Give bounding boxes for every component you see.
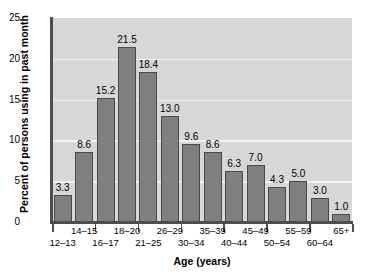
y-axis-tick-label: 15	[0, 95, 20, 105]
bar-value-label: 3.0	[304, 186, 336, 196]
bar	[139, 72, 157, 222]
y-axis-tick-label: 0	[0, 217, 20, 227]
bar-value-label: 8.6	[197, 140, 229, 150]
bar	[97, 98, 115, 222]
bar-value-label: 3.3	[47, 183, 79, 193]
bar-value-label: 21.5	[111, 35, 143, 45]
x-axis-tick-label: 65+	[321, 226, 361, 236]
gridline	[52, 59, 352, 61]
x-axis-tick-label: 12–13	[43, 238, 83, 248]
bar	[182, 144, 200, 222]
x-axis-tick-label: 55–59	[278, 226, 318, 236]
bar-value-label: 13.0	[154, 104, 186, 114]
x-axis-tick-label: 30–34	[171, 238, 211, 248]
bar-value-label: 1.0	[325, 202, 357, 212]
x-axis-tick-label: 40–44	[214, 238, 254, 248]
bar-value-label: 7.0	[240, 153, 272, 163]
bar-value-label: 8.6	[68, 140, 100, 150]
bar	[225, 171, 243, 222]
bar-value-label: 5.0	[282, 169, 314, 179]
bar	[247, 165, 265, 222]
y-axis-tick-label: 20	[0, 54, 20, 64]
x-axis-tick-label: 16–17	[86, 238, 126, 248]
bar	[268, 187, 286, 222]
y-axis-title: Percent of persons using in past month	[16, 7, 32, 221]
x-axis-title: Age (years)	[52, 255, 352, 267]
y-axis-tick-label: 5	[0, 176, 20, 186]
bar-chart: Percent of persons using in past month 0…	[0, 0, 375, 276]
bar	[118, 47, 136, 222]
x-axis-tick-label: 35–39	[193, 226, 233, 236]
x-axis-tick-label: 21–25	[128, 238, 168, 248]
x-axis-tick-label: 26–29	[150, 226, 190, 236]
y-axis-tick-label: 25	[0, 13, 20, 23]
bar-value-label: 18.4	[132, 60, 164, 70]
x-axis-tick-mark	[52, 224, 54, 232]
x-axis-tick-label: 14–15	[64, 226, 104, 236]
x-axis-tick-label: 50–54	[257, 238, 297, 248]
x-axis-tick-label: 45–49	[236, 226, 276, 236]
y-axis-tick-label: 10	[0, 135, 20, 145]
x-axis-tick-label: 18–20	[107, 226, 147, 236]
bar-value-label: 15.2	[90, 86, 122, 96]
bar	[54, 195, 72, 222]
x-axis-tick-label: 60–64	[300, 238, 340, 248]
